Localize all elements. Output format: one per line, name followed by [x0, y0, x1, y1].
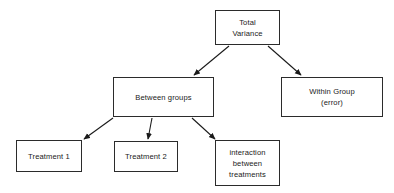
node-total-variance: Total Variance: [215, 10, 280, 45]
node-between-groups-line-1: Between groups: [135, 92, 191, 103]
node-between-groups: Between groups: [113, 77, 214, 117]
node-treatment-1-line-1: Treatment 1: [28, 151, 70, 162]
node-total-variance-line-2: Variance: [232, 28, 262, 39]
node-interaction-line-2: between: [233, 158, 262, 169]
variance-partition-diagram: Total Variance Between groups Within Gro…: [0, 0, 394, 193]
node-treatment-2-line-1: Treatment 2: [125, 151, 167, 162]
arrow-between-to-treatment-2: [148, 118, 152, 139]
node-treatment-1: Treatment 1: [16, 140, 82, 172]
arrow-between-to-treatment-1: [84, 118, 113, 139]
node-within-group-line-2: (error): [321, 97, 343, 108]
arrow-total-to-within: [268, 46, 301, 75]
node-interaction-between-treatments: interaction between treatments: [215, 140, 280, 186]
node-total-variance-line-1: Total: [239, 17, 256, 28]
node-treatment-2: Treatment 2: [114, 141, 178, 172]
node-within-group: Within Group (error): [281, 77, 383, 117]
arrow-total-to-between: [194, 46, 229, 75]
arrow-between-to-interaction: [192, 118, 215, 139]
node-interaction-line-1: interaction: [229, 147, 265, 158]
node-interaction-line-3: treatments: [229, 169, 266, 180]
node-within-group-line-1: Within Group: [309, 86, 355, 97]
